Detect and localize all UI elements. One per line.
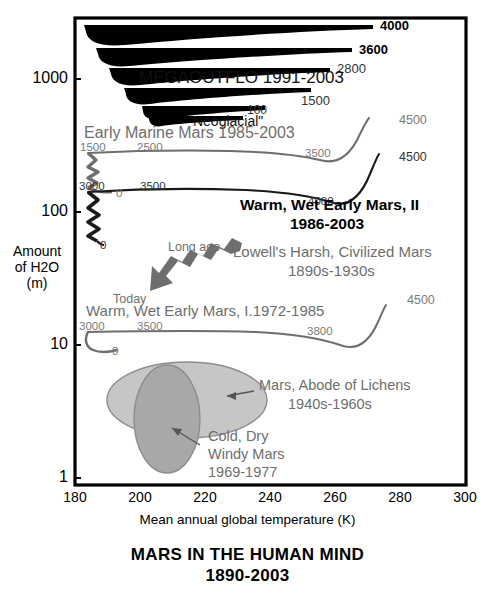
y-tick-10: 10 xyxy=(8,335,68,353)
region-ellipse-cold-dry xyxy=(134,365,200,473)
y-tick-1000: 1000 xyxy=(8,69,68,87)
annotation-long-ago: Long ago xyxy=(168,240,220,254)
curve-label-hook4-end: 1500 xyxy=(301,93,330,108)
annotation-cold-dry-line1: Cold, Dry xyxy=(208,428,268,444)
curve-label-wwi-3500: 3500 xyxy=(137,320,163,332)
curve-label-hook1-end: 4000 xyxy=(380,18,409,33)
curve-label-wwii-3500: 3500 xyxy=(140,180,166,192)
curve-label-hook2-end: 3600 xyxy=(359,42,388,57)
figure-title-sub: 1890-2003 xyxy=(0,566,495,586)
annotation-cold-dry-line2: Windy Mars xyxy=(208,446,285,462)
annotation-early-marine-mars: Early Marine Mars 1985-2003 xyxy=(84,124,295,142)
x-tick-280: 280 xyxy=(378,489,422,505)
x-tick-240: 240 xyxy=(248,489,292,505)
curve-label-emm-2500: 2500 xyxy=(137,141,163,153)
x-tick-180: 180 xyxy=(53,489,97,505)
annotation-lowell-line1: Lowell's Harsh, Civilized Mars xyxy=(233,243,432,260)
x-tick-220: 220 xyxy=(183,489,227,505)
curve-label-wwii-3000: 3000 xyxy=(79,180,105,192)
curve-label-wwi-0: 0 xyxy=(112,345,118,357)
x-tick-300: 300 xyxy=(443,489,487,505)
annotation-lichens-line1: Mars, Abode of Lichens xyxy=(259,377,411,393)
curve-label-emm-3500: 3500 xyxy=(305,147,331,159)
y-tick-1: 1 xyxy=(8,468,68,486)
annotation-today: Today xyxy=(113,292,146,306)
annotation-cold-dry-line3: 1969-1977 xyxy=(208,464,277,480)
annotation-warm-wet-2-line1: Warm, Wet Early Mars, II xyxy=(240,196,419,214)
x-tick-200: 200 xyxy=(118,489,162,505)
annotation-lowell-line2: 1890s-1930s xyxy=(288,262,375,279)
annotation-megaoutflo: MEGAOUTFLO 1991-2003 xyxy=(139,68,344,88)
curve-label-wwi-3800: 3800 xyxy=(307,325,333,337)
curve-label-wwi-4500: 4500 xyxy=(407,293,435,307)
curve-label-emm-4500: 4500 xyxy=(399,113,427,127)
curve-label-emm-1500: 1500 xyxy=(80,141,106,153)
x-tick-260: 260 xyxy=(313,489,357,505)
curve-label-wwi-3000: 3000 xyxy=(79,320,105,332)
y-axis-title-line3: (m) xyxy=(4,275,70,291)
figure-root: 1000 100 10 1 Amount of H2O (m) 180 200 … xyxy=(0,0,495,602)
annotation-lichens-line2: 1940s-1960s xyxy=(288,396,372,412)
annotation-warm-wet-2-line2: 1986-2003 xyxy=(290,215,364,233)
x-axis-title: Mean annual global temperature (K) xyxy=(0,512,495,527)
curve-label-wwii-0: 0 xyxy=(100,239,106,251)
figure-title-main: MARS IN THE HUMAN MIND xyxy=(0,545,495,565)
curve-label-wwii-4500: 4500 xyxy=(399,150,427,164)
y-axis-title-line2: of H2O xyxy=(4,259,70,275)
curve-label-emm-0: 0 xyxy=(116,187,122,199)
y-axis-title-line1: Amount xyxy=(4,243,70,259)
y-tick-100: 100 xyxy=(8,202,68,220)
